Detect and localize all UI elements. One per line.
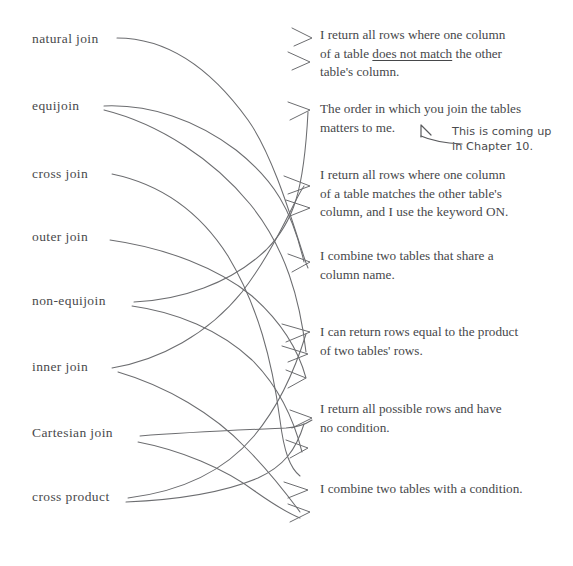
join-term-natural-join[interactable]: natural join [32, 32, 99, 46]
arrowhead-icon [288, 102, 310, 120]
description-line: of a table does not match the other [320, 45, 505, 64]
connector-line [112, 174, 300, 476]
description-line: I return all possible rows and have [320, 400, 502, 419]
arrowhead-icon [288, 504, 310, 522]
connector-line [104, 106, 304, 262]
arrowhead-icon [288, 52, 310, 70]
join-term-cartesian-join[interactable]: Cartesian join [32, 426, 113, 440]
description-matches-keyword-on[interactable]: I return all rows where one columnof a t… [320, 166, 508, 222]
arrowhead-icon [286, 440, 308, 458]
join-term-cross-join[interactable]: cross join [32, 167, 88, 181]
arrowhead-icon [282, 324, 310, 342]
arrowhead-icon [284, 176, 310, 194]
description-line: I combine two tables that share a [320, 247, 494, 266]
description-line: column name. [320, 266, 494, 285]
connector-line [118, 372, 300, 512]
connector-line [117, 38, 308, 268]
description-does-not-match[interactable]: I return all rows where one columnof a t… [320, 26, 505, 82]
description-share-column-name[interactable]: I combine two tables that share acolumn … [320, 247, 494, 284]
connector-line [132, 306, 302, 452]
description-line: I can return rows equal to the product [320, 323, 518, 342]
description-line: of two tables' rows. [320, 342, 518, 361]
underlined-emphasis: does not match [372, 46, 452, 61]
arrowhead-icon [288, 254, 310, 272]
arrowhead-icon [282, 346, 308, 362]
connector-line [104, 110, 306, 352]
join-term-equijoin[interactable]: equijoin [32, 99, 79, 113]
join-term-cross-product[interactable]: cross product [32, 490, 110, 504]
description-line: I return all rows where one column [320, 26, 505, 45]
join-term-inner-join[interactable]: inner join [32, 360, 88, 374]
text-run: of a table [320, 46, 372, 61]
description-line: I combine two tables with a condition. [320, 480, 523, 499]
description-all-possible-rows[interactable]: I return all possible rows and haveno co… [320, 400, 502, 437]
connector-line [134, 112, 308, 302]
arrowhead-icon [290, 410, 312, 428]
arrowhead-icon [286, 200, 310, 216]
description-line: column, and I use the keyword ON. [320, 203, 508, 222]
join-term-outer-join[interactable]: outer join [32, 230, 88, 244]
description-line: I return all rows where one column [320, 166, 508, 185]
connector-line [140, 420, 312, 436]
connector-line [112, 186, 304, 368]
arrowhead-icon [284, 482, 308, 498]
worksheet-page: natural joinequijoincross joinouter join… [0, 0, 573, 566]
arrowhead-icon [292, 28, 312, 46]
description-line: no condition. [320, 419, 502, 438]
connector-line [110, 240, 306, 378]
description-combine-with-condition[interactable]: I combine two tables with a condition. [320, 480, 523, 499]
arrowhead-icon [286, 370, 306, 388]
text-run: the other [452, 46, 502, 61]
description-line: table's column. [320, 63, 505, 82]
description-line: of a table matches the other table's [320, 185, 508, 204]
connector-line [126, 424, 304, 502]
join-term-non-equijoin[interactable]: non-equijoin [32, 294, 106, 308]
chapter-annotation: This is coming up in Chapter 10. [452, 124, 552, 154]
connector-line [128, 334, 306, 498]
description-product-of-rows[interactable]: I can return rows equal to the productof… [320, 323, 518, 360]
connector-line [138, 442, 300, 518]
description-line: The order in which you join the tables [320, 100, 521, 119]
